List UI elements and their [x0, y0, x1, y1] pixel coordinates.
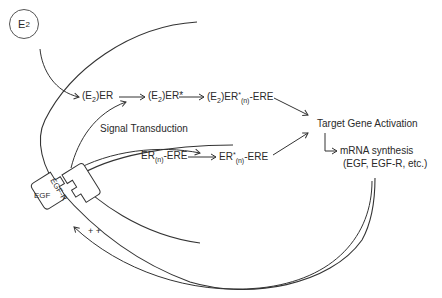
e2-entry-arrow — [40, 49, 79, 97]
label-mrna-products: (EGF, EGF-R, etc.) — [343, 159, 427, 169]
arrow-erstar-to-target — [273, 133, 308, 155]
e2-sub: 2 — [25, 20, 29, 29]
cell-membrane-outer — [40, 22, 375, 289]
label-e2er: (E2)ER — [82, 91, 113, 103]
label-signal-transduction: Signal Transduction — [100, 124, 188, 134]
feedback-arrow — [74, 181, 372, 289]
label-feedback: + + — [88, 227, 101, 236]
signal-transduction-arrow — [71, 102, 126, 168]
label-e2er-star: (E2)ER* — [148, 91, 183, 103]
label-er-n-ere: ER(n)-ERE — [141, 151, 187, 163]
label-er-star-n-ere: ER*(n)-ERE — [219, 151, 268, 164]
label-mrna-synthesis: mRNA synthesis — [340, 146, 413, 156]
label-target-gene-activation: Target Gene Activation — [317, 119, 418, 129]
arrow-ere-to-target — [274, 98, 308, 115]
label-e2er-star-n-ere: (E2)ER*(n)-ERE — [207, 91, 273, 104]
mrna-arrow — [325, 133, 337, 151]
label-egf: EGF — [34, 192, 50, 200]
e2-main: E — [18, 18, 25, 30]
e2-ligand-circle: E2 — [9, 9, 39, 39]
